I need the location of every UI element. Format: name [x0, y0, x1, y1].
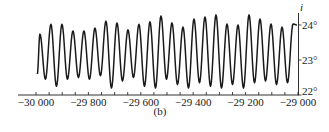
x-tick-label: −29 000: [280, 96, 317, 108]
obliquity-chart: −30 000−29 800−29 600−29 400−29 200−29 0…: [0, 0, 329, 132]
obliquity-curve: [37, 15, 297, 88]
x-ticks: −30 000−29 800−29 600−29 400−29 200−29 0…: [18, 92, 317, 108]
y-axis-label: i: [300, 1, 303, 13]
x-tick-label: −29 400: [175, 96, 212, 108]
x-tick-label: −30 000: [18, 96, 55, 108]
y-ticks: 22°23°24°: [299, 19, 318, 97]
x-tick-label: −29 200: [227, 96, 264, 108]
x-tick-label: −29 800: [70, 96, 107, 108]
y-tick-label: 24°: [302, 19, 317, 31]
y-tick-label: 23°: [302, 54, 317, 66]
panel-label: (b): [154, 105, 167, 118]
y-tick-label: 22°: [302, 85, 317, 97]
